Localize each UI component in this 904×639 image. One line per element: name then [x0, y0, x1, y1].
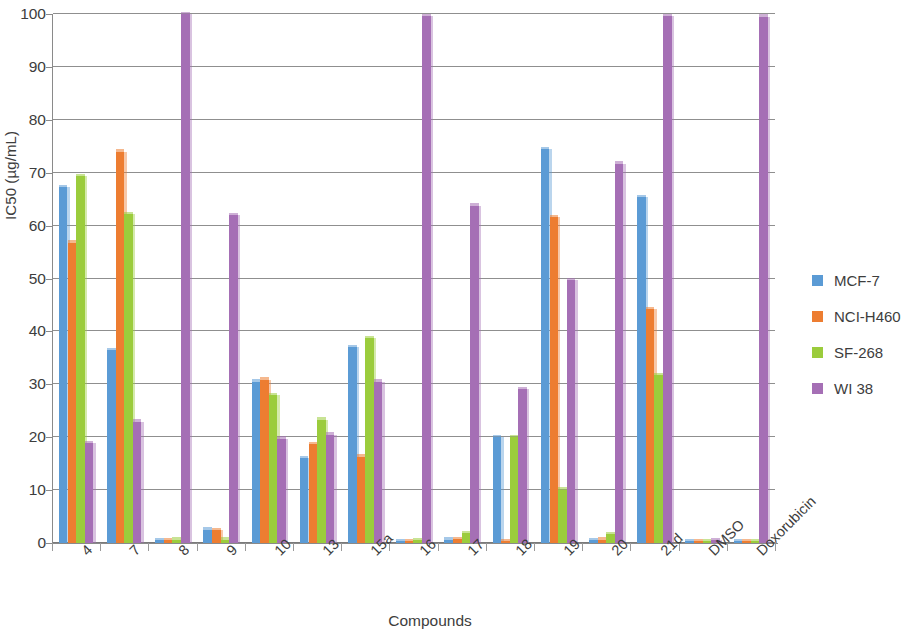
bar-groups	[53, 14, 775, 543]
bar-top-face	[413, 538, 422, 540]
bar-top-face	[453, 537, 462, 539]
legend-item[interactable]: NCI-H460	[812, 298, 904, 334]
bar-top-face	[703, 539, 712, 541]
bar-top-face	[252, 379, 261, 381]
bar-top-face	[694, 539, 703, 541]
bar-top-face	[300, 456, 309, 458]
bar-top-face	[133, 419, 142, 421]
legend-item[interactable]: WI 38	[812, 370, 904, 406]
bar	[181, 14, 190, 543]
legend-label: SF-268	[834, 344, 883, 361]
bar	[646, 309, 655, 543]
bar-top-face	[229, 213, 238, 215]
plot-area	[52, 14, 775, 543]
bar-top-face	[107, 348, 116, 350]
bar-top-face	[326, 432, 335, 434]
bar-top-face	[598, 537, 607, 539]
bar	[374, 382, 383, 543]
bar-top-face	[541, 147, 550, 149]
legend: MCF-7NCI-H460SF-268WI 38	[812, 262, 904, 406]
bar	[107, 350, 116, 543]
bar-side-face	[768, 17, 770, 543]
legend-item[interactable]: SF-268	[812, 334, 904, 370]
y-tick-label: 80	[2, 112, 46, 128]
bar-top-face	[309, 442, 318, 444]
bar-side-face	[93, 443, 95, 543]
bar-top-face	[212, 528, 221, 530]
y-tick-label: 30	[2, 377, 46, 393]
bar-top-face	[164, 538, 173, 540]
bar-top-face	[357, 454, 366, 456]
bar-group	[680, 14, 728, 543]
bar-top-face	[510, 435, 519, 437]
bar-group	[294, 14, 342, 543]
bar-group	[631, 14, 679, 543]
bar	[470, 206, 479, 544]
bar-group	[487, 14, 535, 543]
bar-side-face	[190, 14, 192, 543]
bar-top-face	[663, 14, 672, 16]
bar	[654, 375, 663, 543]
bar-top-face	[59, 185, 68, 187]
bar-top-face	[221, 537, 230, 539]
bar-top-face	[365, 336, 374, 338]
bar	[422, 16, 431, 543]
bar-top-face	[615, 161, 624, 163]
bar	[229, 215, 238, 543]
bar-group	[198, 14, 246, 543]
y-tick-label: 20	[2, 429, 46, 445]
bar	[365, 338, 374, 543]
legend-label: MCF-7	[834, 272, 880, 289]
bar-top-face	[260, 377, 269, 379]
bar	[348, 347, 357, 543]
bar-top-face	[444, 537, 453, 539]
bar-top-face	[124, 212, 133, 214]
bar-top-face	[518, 387, 527, 389]
bar-side-face	[286, 439, 288, 543]
bar	[203, 530, 212, 543]
bar-top-face	[181, 12, 190, 14]
y-tick-label: 50	[2, 271, 46, 287]
bar	[252, 382, 261, 543]
bar-top-face	[348, 345, 357, 347]
bar-side-face	[501, 437, 503, 543]
bar-group	[583, 14, 631, 543]
bar	[357, 457, 366, 543]
bar-group	[149, 14, 197, 543]
bar-top-face	[172, 537, 181, 539]
y-tick-label: 10	[2, 482, 46, 498]
bar-side-face	[479, 206, 481, 544]
bar-top-face	[269, 393, 278, 395]
bar-top-face	[759, 14, 768, 16]
bar-top-face	[374, 379, 383, 381]
page-top-edge	[0, 0, 904, 4]
bar	[309, 444, 318, 543]
bar-top-face	[646, 307, 655, 309]
legend-label: NCI-H460	[834, 308, 901, 325]
bar-top-face	[589, 538, 598, 540]
y-axis-tick-labels: 0102030405060708090100	[0, 0, 46, 560]
bar	[76, 176, 85, 543]
bar-top-face	[501, 539, 510, 541]
legend-label: WI 38	[834, 380, 873, 397]
bar-side-face	[382, 382, 384, 543]
bar-top-face	[550, 215, 559, 217]
bar-top-face	[558, 487, 567, 489]
bar-top-face	[317, 417, 326, 419]
bar-top-face	[685, 539, 694, 541]
bar	[615, 164, 624, 543]
bar	[510, 437, 519, 543]
bar	[759, 17, 768, 543]
y-tick-label: 100	[2, 6, 46, 22]
bar-group	[535, 14, 583, 543]
legend-item[interactable]: MCF-7	[812, 262, 904, 298]
bar-side-face	[575, 280, 577, 543]
bar-top-face	[606, 532, 615, 534]
bar-side-face	[334, 435, 336, 543]
bar-top-face	[637, 195, 646, 197]
bar	[260, 380, 269, 543]
bar	[518, 389, 527, 543]
bar-group	[101, 14, 149, 543]
bar-side-face	[431, 16, 433, 543]
bar-group	[439, 14, 487, 543]
